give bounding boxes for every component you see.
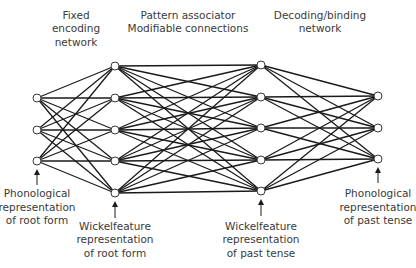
connection-line (115, 191, 261, 193)
phonological-root-unit-0 (33, 94, 41, 102)
phonological-past-label: of past tense (344, 214, 413, 226)
phonological-past-label: Phonological (345, 187, 412, 199)
wickelfeature-past-unit-0 (257, 61, 265, 69)
phonological-past-unit-2 (374, 155, 382, 163)
wickelfeature-past-label: representation (222, 233, 299, 245)
phonological-root-label: Phonological (4, 187, 71, 199)
connection-line (115, 65, 261, 66)
section-labels: FixedencodingnetworkPattern associatorMo… (52, 9, 366, 48)
decoding-binding-network-title: Decoding/binding (274, 9, 366, 21)
wickelfeature-past-unit-4 (257, 187, 265, 195)
phonological-root-unit-2 (33, 157, 41, 165)
connection-line (261, 65, 378, 96)
layer-labels: Phonologicalrepresentationof root formWi… (0, 187, 416, 259)
fixed-encoding-network-title: network (55, 36, 99, 48)
wickelfeature-root-label: Wickelfeature (79, 220, 151, 232)
wickelfeature-past-unit-2 (257, 124, 265, 132)
phonological-past-unit-0 (374, 92, 382, 100)
wickelfeature-past-unit-1 (257, 93, 265, 101)
label-arrows (37, 170, 378, 218)
pattern-associator-title: Pattern associator (141, 9, 237, 21)
fixed-encoding-network-title: encoding (52, 22, 100, 34)
connection-line (115, 65, 261, 98)
wickelfeature-root-unit-0 (111, 62, 119, 70)
phonological-root-label: of root form (6, 214, 68, 226)
wickelfeature-root-label: representation (76, 233, 153, 245)
pattern-associator-title: Modifiable connections (128, 22, 249, 34)
connections (37, 65, 378, 193)
wickelfeature-root-unit-4 (111, 189, 119, 197)
phonological-past-unit-1 (374, 124, 382, 132)
wickelfeature-root-label: of root form (84, 247, 146, 259)
connection-line (37, 66, 115, 161)
phonological-past-label: representation (339, 201, 416, 213)
wickelfeature-root-unit-2 (111, 126, 119, 134)
wickelfeature-past-label: Wickelfeature (225, 220, 297, 232)
phonological-root-label: representation (0, 201, 76, 213)
connection-line (261, 96, 378, 97)
wickelfeature-past-unit-3 (257, 156, 265, 164)
wickelfeature-past-label: of past tense (227, 247, 296, 259)
connection-line (37, 66, 115, 98)
network-diagram: FixedencodingnetworkPattern associatorMo… (0, 0, 416, 268)
connection-line (261, 96, 378, 191)
decoding-binding-network-title: network (299, 22, 343, 34)
phonological-root-unit-1 (33, 126, 41, 134)
wickelfeature-root-unit-1 (111, 94, 119, 102)
wickelfeature-root-unit-3 (111, 157, 119, 165)
fixed-encoding-network-title: Fixed (62, 9, 89, 21)
